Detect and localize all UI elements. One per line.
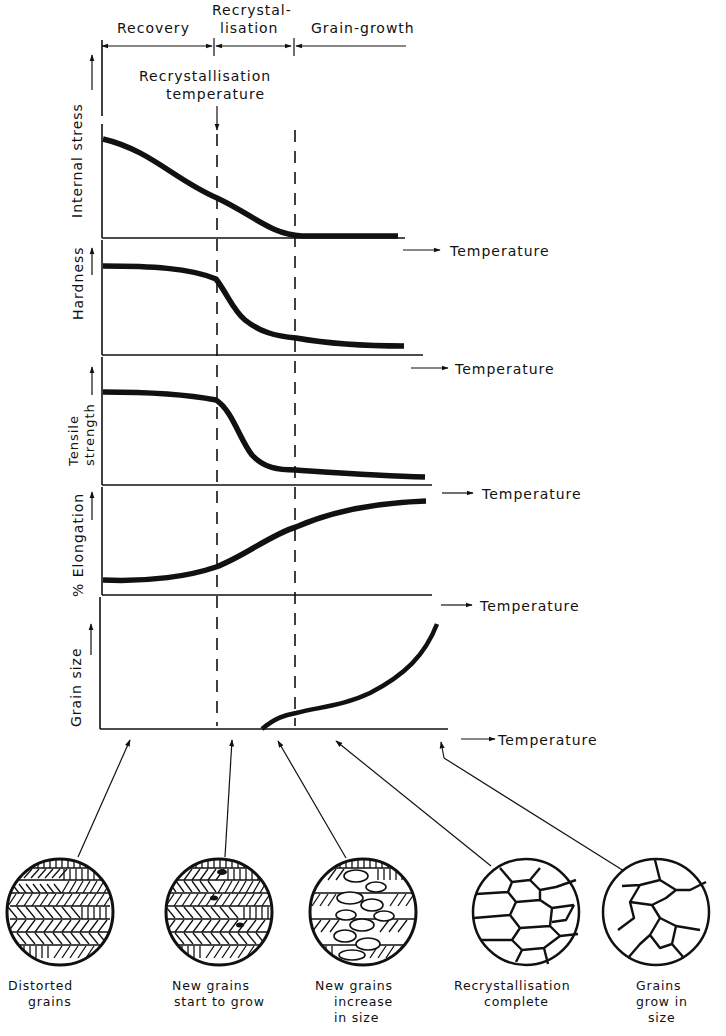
y-label-tensile-strength-line1: Tensile — [66, 415, 81, 467]
caption-recrystallised-line1: Recrystallisation — [454, 978, 570, 993]
caption-new-grains-line2: increase — [334, 994, 393, 1009]
pointer-line-grain-growth — [444, 758, 624, 871]
caption-recrystallised-line2: complete — [484, 994, 549, 1009]
internal-stress-curve — [103, 139, 398, 236]
recrystallisation-temperature-label-line2: temperature — [166, 86, 265, 102]
elongation-curve — [103, 501, 426, 580]
x-label-temperature: Temperature — [454, 361, 555, 377]
caption-nucleation-line2: start to grow — [174, 994, 265, 1009]
phase-grain-growth-label: Grain-growth — [311, 20, 415, 36]
panel-elongation: % Elongation Temperature — [70, 487, 580, 614]
caption-distorted-line1: Distorted — [8, 978, 73, 993]
x-label-temperature: Temperature — [481, 486, 582, 502]
caption-grain-growth-line2: grow in — [636, 994, 688, 1009]
x-label-temperature: Temperature — [479, 598, 580, 614]
pointer-arrow-recrystallised — [336, 741, 491, 866]
microstructure-pointers — [78, 740, 624, 871]
phase-header: Recovery Recrystal- lisation Grain-growt… — [102, 2, 415, 130]
pointer-arrow-nucleation — [225, 740, 232, 857]
microstructure-distorted-grains — [7, 859, 113, 965]
y-label-grain-size: Grain size — [68, 647, 84, 727]
pointer-arrow-new-grains-grow — [278, 741, 346, 858]
y-label-hardness: Hardness — [70, 246, 86, 320]
caption-new-grains-line1: New grains — [315, 978, 393, 993]
annealing-diagram: Recovery Recrystal- lisation Grain-growt… — [0, 0, 726, 1036]
phase-recrystallisation-label-line1: Recrystal- — [212, 2, 292, 18]
tensile-strength-curve — [103, 392, 425, 477]
caption-grain-growth-line3: size — [648, 1010, 675, 1025]
panel-hardness: Hardness Temperature — [70, 240, 555, 377]
panel-grain-size: Grain size Temperature — [68, 597, 598, 748]
y-label-elongation: % Elongation — [70, 493, 86, 597]
microstructure-nucleation — [166, 859, 272, 965]
caption-nucleation-line1: New grains — [172, 978, 250, 993]
pointer-arrow-grain-growth — [441, 742, 444, 758]
phase-recovery-label: Recovery — [117, 20, 190, 36]
caption-grain-growth-line1: Grains — [636, 978, 681, 993]
panel-internal-stress: Internal stress Temperature — [69, 55, 550, 259]
y-label-internal-stress: Internal stress — [69, 103, 85, 218]
microstructure-recrystallisation-complete — [473, 859, 579, 965]
caption-distorted-line2: grains — [28, 994, 71, 1009]
phase-recrystallisation-label-line2: lisation — [220, 20, 278, 36]
panel-tensile-strength: Tensile strength Temperature — [66, 357, 582, 502]
grain-size-curve — [262, 624, 437, 729]
y-label-tensile-strength-line2: strength — [82, 403, 97, 466]
recrystallisation-temperature-label-line1: Recrystallisation — [139, 68, 271, 84]
hardness-curve — [103, 266, 404, 346]
microstructure-grain-growth — [603, 859, 709, 965]
x-label-temperature: Temperature — [497, 732, 598, 748]
microstructure-captions: Distorted grains New grains start to gro… — [8, 978, 688, 1025]
caption-new-grains-line3: in size — [334, 1010, 379, 1025]
pointer-arrow-distorted — [78, 740, 130, 857]
x-label-temperature: Temperature — [449, 243, 550, 259]
microstructure-new-grains-growing — [310, 859, 416, 965]
